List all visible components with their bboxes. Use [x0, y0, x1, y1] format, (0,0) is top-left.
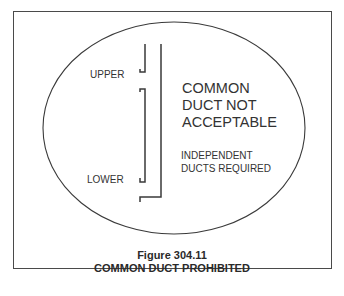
- figure-number: Figure 304.11: [0, 249, 344, 262]
- main-line-3: ACCEPTABLE: [182, 114, 277, 131]
- figure-caption: Figure 304.11 COMMON DUCT PROHIBITED: [0, 249, 344, 275]
- common-duct-line: [140, 44, 161, 202]
- figure-title: COMMON DUCT PROHIBITED: [0, 262, 344, 275]
- main-line-1: COMMON: [182, 80, 277, 97]
- upper-duct-line: [140, 44, 145, 72]
- lower-duct-line: [140, 89, 145, 182]
- main-line-2: DUCT NOT: [182, 97, 277, 114]
- sub-line-1: INDEPENDENT: [181, 150, 271, 163]
- lower-label: LOWER: [87, 174, 124, 185]
- sub-line-2: DUCTS REQUIRED: [181, 163, 271, 176]
- upper-label: UPPER: [90, 69, 124, 80]
- main-warning-text: COMMON DUCT NOT ACCEPTABLE: [182, 80, 277, 131]
- sub-note-text: INDEPENDENT DUCTS REQUIRED: [181, 150, 271, 175]
